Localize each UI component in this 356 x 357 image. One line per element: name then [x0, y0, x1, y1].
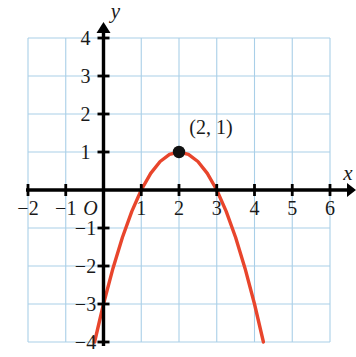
x-tick-label: 2	[174, 197, 184, 219]
x-tick-label: 5	[287, 197, 297, 219]
x-axis-arrow	[347, 183, 356, 197]
vertex-point	[173, 146, 185, 158]
origin-label: O	[83, 197, 97, 219]
coordinate-plane-svg: −2−11234564321−1−2−3−4Oxy(2, 1)	[0, 0, 356, 357]
x-tick-label: 6	[325, 197, 335, 219]
y-tick-label: −4	[75, 331, 96, 353]
x-tick-label: −2	[17, 197, 38, 219]
y-tick-label: −1	[75, 217, 96, 239]
y-tick-label: −3	[75, 293, 96, 315]
y-axis-label: y	[109, 0, 121, 23]
graph-figure: −2−11234564321−1−2−3−4Oxy(2, 1)	[0, 0, 356, 357]
x-axis-label: x	[342, 161, 353, 185]
x-tick-label: 4	[250, 197, 260, 219]
y-tick-label: 2	[81, 103, 91, 125]
y-tick-label: −2	[75, 255, 96, 277]
x-tick-label: 3	[212, 197, 222, 219]
x-tick-label: 1	[136, 197, 146, 219]
y-axis-arrow	[97, 22, 111, 33]
x-tick-label: −1	[55, 197, 76, 219]
y-tick-label: 3	[81, 65, 91, 87]
y-tick-label: 1	[81, 141, 91, 163]
vertex-label: (2, 1)	[189, 116, 232, 139]
y-tick-label: 4	[81, 27, 91, 49]
